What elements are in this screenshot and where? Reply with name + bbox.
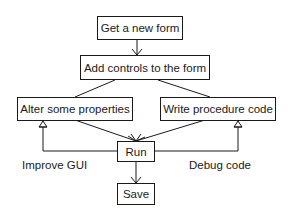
edge-label-debug-code: Debug code bbox=[189, 159, 251, 171]
edge-label-improve-gui: Improve GUI bbox=[22, 159, 87, 171]
node-label: Save bbox=[123, 188, 149, 200]
node-run: Run bbox=[117, 141, 155, 162]
node-save: Save bbox=[117, 183, 155, 205]
node-add-controls: Add controls to the form bbox=[80, 55, 210, 80]
node-write-procedure-code: Write procedure code bbox=[160, 97, 276, 121]
node-label: Get a new form bbox=[101, 22, 180, 34]
node-label: Add controls to the form bbox=[84, 62, 206, 74]
node-get-new-form: Get a new form bbox=[97, 16, 183, 40]
node-label: Write procedure code bbox=[163, 103, 273, 115]
node-alter-properties: Alter some properties bbox=[17, 97, 133, 121]
node-label: Run bbox=[125, 146, 146, 158]
node-label: Alter some properties bbox=[20, 103, 129, 115]
